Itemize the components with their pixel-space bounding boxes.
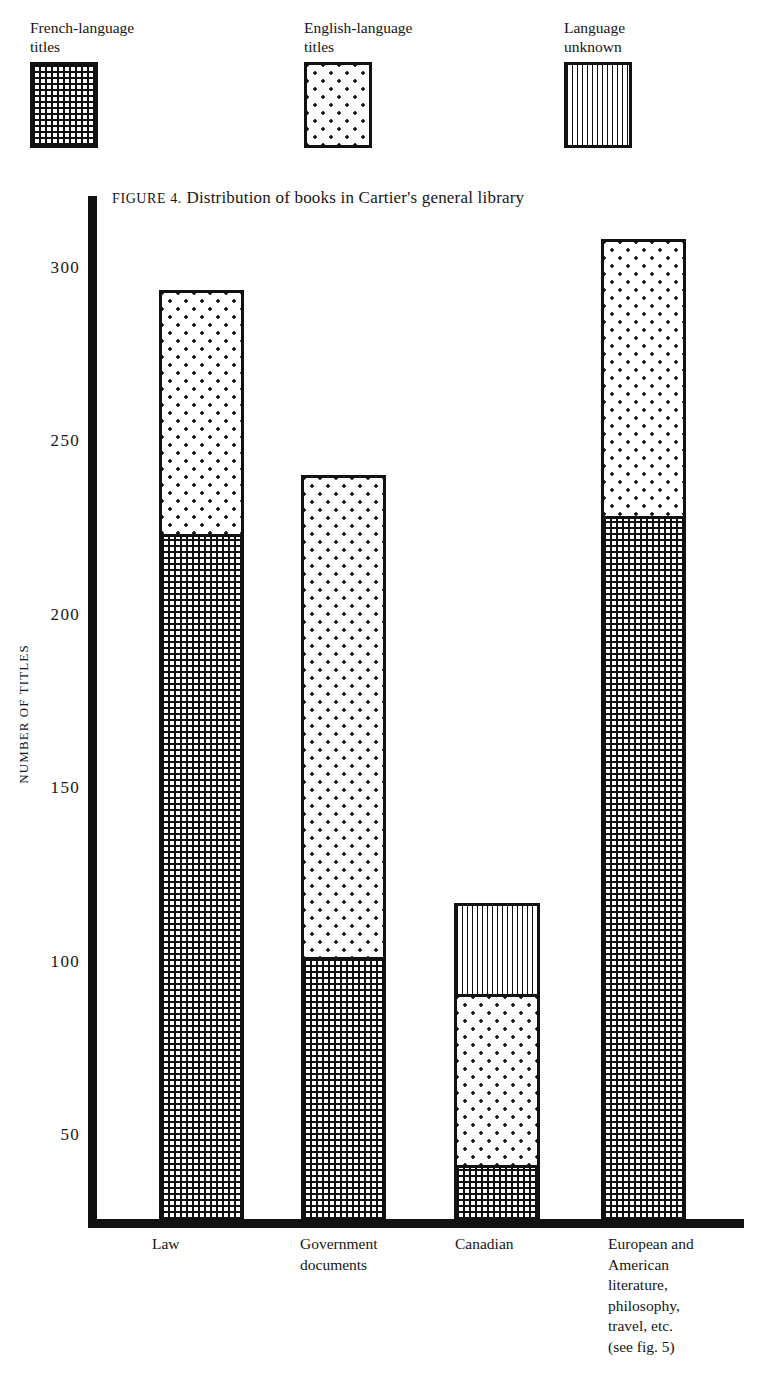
chart-plot-area: 300 250 200 150 100 50 NUMBER OF TITLES … (0, 0, 757, 1383)
y-tick-200: 200 (51, 605, 80, 625)
bar-law-segment-english (162, 293, 241, 534)
bar-government-documents-segment-french (304, 957, 383, 1219)
bar-european-american (601, 239, 686, 1222)
bar-government-documents (301, 475, 386, 1222)
y-tick-labels: 300 250 200 150 100 50 (0, 0, 80, 1383)
y-tick-150: 150 (51, 778, 80, 798)
bar-european-american-segment-french (604, 516, 683, 1219)
y-tick-50: 50 (60, 1125, 80, 1145)
y-axis-title: NUMBER OF TITLES (16, 634, 32, 794)
x-label-european-american: European and American literature, philos… (608, 1234, 753, 1357)
bar-canadian-segment-unknown (457, 906, 537, 994)
x-label-canadian: Canadian (455, 1234, 585, 1255)
bar-law (159, 290, 244, 1222)
y-axis-line (88, 196, 97, 1226)
y-tick-250: 250 (51, 431, 80, 451)
x-label-law: Law (152, 1234, 282, 1255)
bar-canadian-segment-english (457, 994, 537, 1165)
y-tick-300: 300 (51, 258, 80, 278)
bar-canadian-segment-french (457, 1165, 537, 1219)
x-label-government-documents: Government documents (300, 1234, 440, 1275)
y-tick-100: 100 (51, 952, 80, 972)
bar-canadian (454, 903, 540, 1222)
bar-government-documents-segment-english (304, 478, 383, 957)
bar-law-segment-french (162, 534, 241, 1219)
bar-european-american-segment-english (604, 242, 683, 516)
